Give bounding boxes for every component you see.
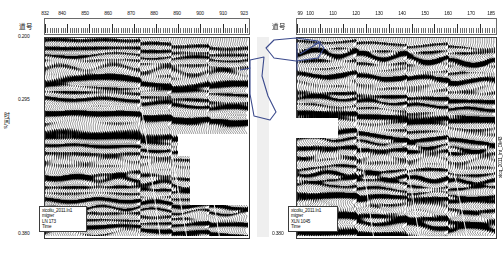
axis-tick-minor <box>384 28 385 33</box>
axis-tick-minor <box>460 28 461 33</box>
trace-tick-label: 832 <box>41 10 49 16</box>
axis-tick-minor <box>85 28 86 33</box>
axis-tick-minor <box>169 28 170 33</box>
trace-tick-label: 140 <box>398 10 406 16</box>
axis-tick-minor <box>229 28 230 33</box>
axis-tick-minor <box>123 28 124 33</box>
axis-tick-minor <box>81 28 82 33</box>
axis-tick-major <box>343 24 344 33</box>
axis-tick-minor <box>377 28 378 33</box>
axis-tick-minor <box>83 28 84 33</box>
trace-axis-label-left: 道号 <box>19 21 33 31</box>
axis-tick-minor <box>466 28 467 33</box>
axis-tick-minor <box>183 28 184 33</box>
axis-tick-minor <box>450 28 451 33</box>
axis-tick-minor <box>109 28 110 33</box>
axis-tick-minor <box>318 28 319 33</box>
axis-tick-minor <box>205 28 206 33</box>
axis-tick-minor <box>225 28 226 33</box>
axis-tick-minor <box>407 28 408 33</box>
axis-tick-minor <box>446 28 447 33</box>
trace-tick-label: 110 <box>329 10 336 16</box>
axis-tick-minor <box>352 28 353 33</box>
axis-tick-minor <box>240 28 241 33</box>
axis-tick-major <box>67 24 68 33</box>
axis-tick-minor <box>136 28 137 33</box>
axis-tick-minor <box>103 28 104 33</box>
axis-tick-minor <box>163 28 164 33</box>
axis-tick-minor <box>203 28 204 33</box>
axis-tick-minor <box>101 28 102 33</box>
axis-tick-minor <box>58 28 59 33</box>
axis-tick-minor <box>405 28 406 33</box>
axis-tick-minor <box>306 28 307 33</box>
axis-tick-minor <box>418 28 419 33</box>
axis-tick-minor <box>304 28 305 33</box>
trace-tick-label: 99 <box>297 10 302 16</box>
info-line-domain: Time <box>291 224 335 229</box>
panel-info-box-left: xicoliu_2011.ln1 migrer LN 173 Time <box>39 206 87 232</box>
axis-tick-major <box>297 24 298 33</box>
axis-tick-minor <box>92 28 93 33</box>
axis-tick-minor <box>198 28 199 33</box>
erase-patch <box>178 134 248 156</box>
axis-tick-minor <box>87 28 88 33</box>
axis-tick-minor <box>145 28 146 33</box>
axis-tick-minor <box>167 28 168 33</box>
axis-tick-major <box>223 24 224 33</box>
axis-tick-minor <box>386 28 387 33</box>
axis-tick-minor <box>494 28 495 33</box>
axis-tick-minor <box>176 28 177 33</box>
axis-tick-minor <box>220 28 221 33</box>
axis-tick-minor <box>421 28 422 33</box>
axis-tick-minor <box>56 28 57 33</box>
axis-tick-minor <box>464 28 465 33</box>
axis-tick-minor <box>492 28 493 33</box>
axis-tick-minor <box>423 28 424 33</box>
axis-tick-minor <box>125 28 126 33</box>
axis-tick-minor <box>105 28 106 33</box>
axis-tick-minor <box>70 28 71 33</box>
axis-tick-minor <box>98 28 99 33</box>
axis-tick-minor <box>236 28 237 33</box>
axis-tick-minor <box>158 28 159 33</box>
axis-tick-minor <box>50 28 51 33</box>
axis-tick-minor <box>196 28 197 33</box>
axis-tick-major <box>245 24 246 33</box>
axis-tick-minor <box>363 28 364 33</box>
axis-tick-minor <box>172 28 173 33</box>
axis-tick-minor <box>231 28 232 33</box>
axis-tick-minor <box>329 28 330 33</box>
trace-axis-label-right: 道号 <box>272 21 286 31</box>
axis-tick-minor <box>416 28 417 33</box>
axis-tick-minor <box>127 28 128 33</box>
axis-tick-minor <box>94 28 95 33</box>
axis-tick-minor <box>336 28 337 33</box>
axis-tick-minor <box>72 28 73 33</box>
axis-tick-minor <box>396 28 397 33</box>
axis-tick-minor <box>437 28 438 33</box>
axis-tick-minor <box>191 28 192 33</box>
axis-tick-minor <box>361 28 362 33</box>
trace-tick-label: 170 <box>467 10 475 16</box>
trace-tick-label: 160 <box>444 10 452 16</box>
axis-tick-minor <box>478 28 479 33</box>
axis-tick-minor <box>331 28 332 33</box>
axis-tick-minor <box>400 28 401 33</box>
axis-tick-minor <box>52 28 53 33</box>
axis-tick-minor <box>462 28 463 33</box>
axis-tick-minor <box>487 28 488 33</box>
axis-tick-major <box>89 24 90 33</box>
axis-tick-minor <box>347 28 348 33</box>
erase-patch <box>296 118 338 138</box>
axis-tick-minor <box>370 28 371 33</box>
trace-tick-label: 100 <box>306 10 314 16</box>
axis-tick-minor <box>149 28 150 33</box>
axis-tick-minor <box>121 28 122 33</box>
axis-tick-minor <box>138 28 139 33</box>
axis-tick-minor <box>357 28 358 33</box>
axis-tick-major <box>434 24 435 33</box>
axis-tick-minor <box>147 28 148 33</box>
trace-tick-label: 860 <box>104 10 112 16</box>
